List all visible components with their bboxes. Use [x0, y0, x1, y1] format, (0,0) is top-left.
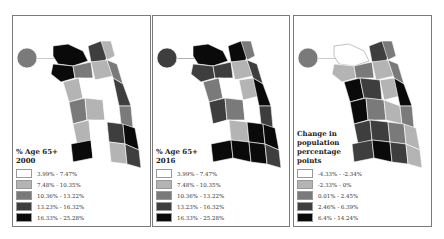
legend: Change in population percentage points -…: [297, 129, 362, 223]
legend-item: 16.33% - 25.28%: [156, 212, 224, 223]
legend-swatch: [156, 169, 172, 178]
legend-swatch: [297, 202, 313, 211]
legend-item: 7.48% - 10.35%: [156, 179, 224, 190]
legend-title: % Age 65+ 2000: [16, 147, 84, 165]
legend-swatch: [156, 180, 172, 189]
legend-swatch: [156, 191, 172, 200]
legend-title: Change in population percentage points: [297, 129, 362, 165]
legend-item: 6.4% - 14.24%: [297, 212, 362, 223]
legend-item: 13.23% - 16.32%: [156, 201, 224, 212]
map-panel-change: Change in population percentage points -…: [293, 15, 432, 227]
legend-item: 7.48% - 10.35%: [16, 179, 84, 190]
legend-swatch: [16, 191, 32, 200]
map-panel-2000: % Age 65+ 2000 3.99% - 7.47% 7.48% - 10.…: [12, 15, 151, 227]
legend-swatch: [156, 213, 172, 222]
legend: % Age 65+ 2016 3.99% - 7.47% 7.48% - 10.…: [156, 147, 224, 223]
legend-item: 3.99% - 7.47%: [156, 168, 224, 179]
map-panel-2016: % Age 65+ 2016 3.99% - 7.47% 7.48% - 10.…: [152, 15, 290, 227]
legend-swatch: [297, 213, 313, 222]
legend-item: 10.36% - 13.22%: [16, 190, 84, 201]
legend-swatch: [16, 169, 32, 178]
legend: % Age 65+ 2000 3.99% - 7.47% 7.48% - 10.…: [16, 147, 84, 223]
legend-item: 2.46% - 6.39%: [297, 201, 362, 212]
legend-swatch: [16, 180, 32, 189]
legend-swatch: [297, 191, 313, 200]
legend-swatch: [16, 213, 32, 222]
legend-item: -2.33% - 0%: [297, 179, 362, 190]
legend-item: 13.23% - 16.32%: [16, 201, 84, 212]
legend-item: 0.01% - 2.45%: [297, 190, 362, 201]
legend-item: 10.36% - 13.22%: [156, 190, 224, 201]
legend-swatch: [16, 202, 32, 211]
legend-swatch: [156, 202, 172, 211]
legend-item: -4.33% - -2.34%: [297, 168, 362, 179]
legend-item: 3.99% - 7.47%: [16, 168, 84, 179]
legend-swatch: [297, 180, 313, 189]
legend-swatch: [297, 169, 313, 178]
legend-item: 16.33% - 25.28%: [16, 212, 84, 223]
legend-title: % Age 65+ 2016: [156, 147, 224, 165]
